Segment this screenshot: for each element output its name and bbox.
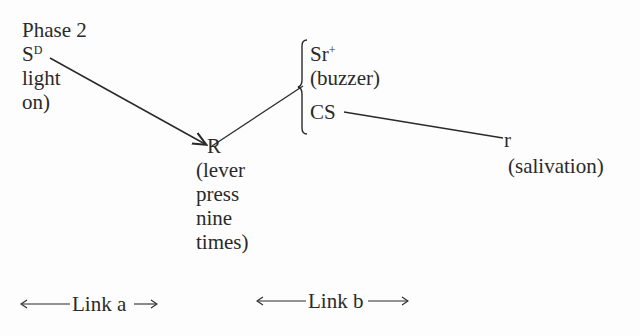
r-symbol: R — [207, 134, 221, 158]
sd-desc-line-2: on) — [22, 90, 50, 114]
sd-to-r-arrow — [50, 58, 205, 144]
r-to-sr-line — [212, 86, 303, 146]
cs-label: CS — [310, 100, 336, 124]
sr-symbol: Sr — [310, 42, 329, 66]
sr-node: Sr+ — [310, 42, 335, 69]
r-desc-line-3: nine — [196, 206, 232, 230]
cs-to-r-line — [344, 112, 503, 138]
link-a-label: Link a — [72, 292, 126, 316]
phase-title: Phase 2 — [22, 18, 87, 42]
sd-node: SD — [22, 42, 42, 69]
r-desc-line-1: (lever — [196, 158, 245, 182]
sr-desc: (buzzer) — [310, 66, 380, 90]
link-b-label: Link b — [308, 289, 363, 313]
sd-superscript: D — [34, 43, 43, 57]
sd-desc-line-1: light — [22, 66, 61, 90]
r-desc-line-4: times) — [196, 230, 249, 254]
r-desc-line-2: press — [196, 182, 239, 206]
sr-superscript: + — [329, 43, 336, 57]
sd-symbol: S — [22, 42, 34, 66]
resp-symbol: r — [504, 128, 511, 152]
resp-desc: (salivation) — [508, 154, 604, 178]
